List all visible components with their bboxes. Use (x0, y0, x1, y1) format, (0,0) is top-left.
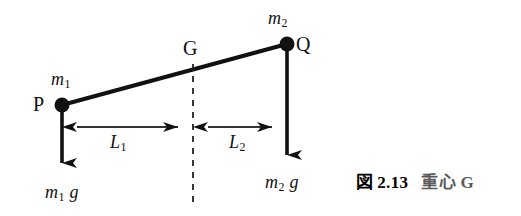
weight-label-m2g-gravity: g (289, 172, 298, 192)
weight-label-m2g-symbol: m (265, 172, 278, 192)
mass-point-q (280, 37, 295, 52)
mass-label-m1: m1 (51, 70, 70, 90)
weight-label-m1g-gravity: g (69, 182, 78, 202)
weight-label-m1g-symbol: m (45, 182, 58, 202)
mass-label-m2: m2 (268, 9, 287, 29)
weight-label-m2g: m2g (265, 173, 298, 193)
point-label-q: Q (296, 34, 310, 54)
figure-caption-title: 重心 G (421, 173, 474, 192)
dimension-label-l1-subscript: 1 (120, 140, 126, 154)
mass-label-m1-subscript: 1 (64, 77, 70, 91)
figure-caption: 図2.13重心 G (356, 168, 474, 193)
weight-label-m1g: m1g (45, 183, 78, 203)
dimension-label-l2: L2 (229, 133, 245, 153)
mass-label-m2-subscript: 2 (281, 16, 287, 30)
figure-center-of-gravity: P Q G m1 m2 m1g m2g L1 L2 図2.13重心 G (0, 0, 521, 216)
figure-caption-prefix: 図 (356, 173, 373, 192)
dimension-label-l2-subscript: 2 (239, 140, 245, 154)
mass-point-p (55, 98, 70, 113)
mass-label-m1-symbol: m (51, 69, 64, 89)
dimension-label-l2-symbol: L (229, 132, 239, 152)
weight-label-m1g-subscript: 1 (58, 190, 64, 204)
dimension-label-l1-symbol: L (110, 132, 120, 152)
weight-label-m2g-subscript: 2 (278, 180, 284, 194)
figure-caption-number: 2.13 (377, 173, 408, 192)
mass-label-m2-symbol: m (268, 8, 281, 28)
bar-line (62, 44, 287, 105)
point-label-g: G (183, 38, 197, 58)
point-label-p: P (33, 94, 44, 114)
dimension-label-l1: L1 (110, 133, 126, 153)
